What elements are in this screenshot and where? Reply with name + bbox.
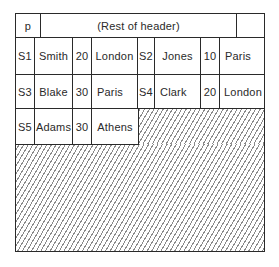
- record-s2-city: Paris: [220, 38, 265, 75]
- cell-text: 30: [76, 86, 89, 98]
- record-s1-sname: Smith: [35, 38, 73, 75]
- cell-text: London: [96, 50, 134, 62]
- record-s4-status: 20: [201, 75, 220, 109]
- cell-text: S4: [139, 86, 153, 98]
- cell-text: Clark: [160, 86, 187, 98]
- record-s5-sname: Adams: [35, 109, 73, 145]
- free-space-hatch-bottom: [16, 144, 265, 252]
- record-s1-sno: S1: [16, 38, 35, 75]
- page-diagram: p (Rest of header) S1 Smith 20 London S2…: [15, 13, 265, 252]
- cell-text: 10: [204, 50, 217, 62]
- cell-text: 30: [76, 121, 89, 133]
- record-s4-city: London: [220, 75, 265, 109]
- header-rest: (Rest of header): [41, 14, 237, 38]
- record-s5-city: Athens: [92, 109, 139, 145]
- cell-text: 20: [204, 86, 217, 98]
- record-s5-status: 30: [73, 109, 92, 145]
- cell-text: Paris: [225, 50, 251, 62]
- header-trailer: [237, 14, 265, 38]
- record-s2-sno: S2: [138, 38, 155, 75]
- record-s4-sno: S4: [138, 75, 155, 109]
- header-rest-text: (Rest of header): [97, 20, 180, 32]
- cell-text: S3: [18, 86, 32, 98]
- cell-text: Smith: [39, 50, 68, 62]
- cell-text: Adams: [36, 121, 71, 133]
- record-s1-city: London: [92, 38, 138, 75]
- record-s5-sno: S5: [16, 109, 35, 145]
- record-s1-status: 20: [73, 38, 92, 75]
- cell-text: S5: [18, 121, 32, 133]
- header-page-label-text: p: [25, 20, 31, 32]
- record-s2-sname: Jones: [155, 38, 201, 75]
- header-page-label: p: [16, 14, 41, 38]
- record-s2-status: 10: [201, 38, 220, 75]
- cell-text: S2: [139, 50, 153, 62]
- cell-text: Blake: [39, 86, 68, 98]
- cell-text: S1: [18, 50, 32, 62]
- free-space-hatch-right: [138, 108, 265, 148]
- cell-text: London: [224, 86, 262, 98]
- cell-text: Jones: [162, 50, 192, 62]
- record-s3-city: Paris: [92, 75, 138, 109]
- record-s3-sname: Blake: [35, 75, 73, 109]
- cell-text: Athens: [97, 121, 132, 133]
- record-s4-sname: Clark: [155, 75, 201, 109]
- record-s3-status: 30: [73, 75, 92, 109]
- cell-text: 20: [76, 50, 89, 62]
- cell-text: Paris: [97, 86, 123, 98]
- record-s3-sno: S3: [16, 75, 35, 109]
